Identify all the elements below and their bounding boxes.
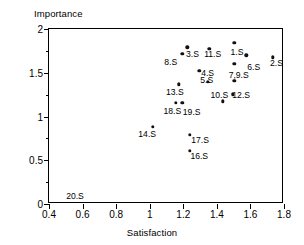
y-axis-title: Importance — [34, 8, 83, 19]
data-point-label: 18.S — [164, 106, 182, 116]
y-tick-mark — [44, 117, 49, 118]
data-point-label: 10.S — [211, 90, 229, 100]
data-point — [233, 41, 236, 44]
data-point-label: 2.S — [270, 58, 283, 68]
data-point-label: 19.S — [183, 107, 201, 117]
y-tick-minor — [46, 95, 50, 96]
data-point-label: 14.S — [138, 129, 156, 139]
y-tick-mark — [44, 160, 49, 161]
data-point-label: 6.S — [247, 62, 260, 72]
x-axis-title: Satisfaction — [0, 227, 304, 238]
y-tick-mark — [44, 73, 49, 74]
x-tick-label: 0.8 — [99, 209, 133, 220]
data-point-label: 3.S — [186, 49, 199, 59]
x-tick-label: 1.2 — [166, 209, 200, 220]
scatter-plot-figure: Importance 00.511.52 0.40.60.811.21.41.6… — [0, 0, 304, 245]
data-point — [221, 99, 224, 102]
data-point-label: 16.S — [190, 151, 208, 161]
data-point-label: 20.S — [66, 191, 84, 201]
data-point-label: 8.S — [164, 57, 177, 67]
y-tick-label: 1.5 — [17, 67, 43, 78]
y-tick-label: 2 — [17, 24, 43, 35]
data-point-label: 12.S — [232, 90, 250, 100]
data-point-label: 5.S — [200, 75, 213, 85]
data-point — [181, 101, 184, 104]
data-point-label: 1.S — [231, 47, 244, 57]
y-tick-label: 1 — [17, 111, 43, 122]
y-tick-mark — [44, 29, 49, 30]
plot-area: 00.511.52 0.40.60.811.21.41.61.8 3.S8.S1… — [48, 28, 283, 203]
data-point-label: 7,9.S — [229, 70, 249, 80]
data-point — [174, 101, 177, 104]
x-tick-label: 0.6 — [66, 209, 100, 220]
y-tick-minor — [46, 138, 50, 139]
data-point — [181, 52, 184, 55]
x-tick-label: 1 — [133, 209, 167, 220]
data-point — [151, 125, 154, 128]
x-tick-label: 1.4 — [200, 209, 234, 220]
y-tick-label: 0 — [17, 199, 43, 210]
data-point — [245, 54, 248, 57]
x-tick-label: 0.4 — [32, 209, 66, 220]
data-point — [233, 62, 236, 65]
x-tick-label: 1.8 — [267, 209, 301, 220]
data-point — [177, 82, 180, 85]
data-point-label: 17.S — [191, 135, 209, 145]
y-tick-label: 0.5 — [17, 155, 43, 166]
x-tick-label: 1.6 — [233, 209, 267, 220]
data-point-label: 13.S — [166, 87, 184, 97]
y-tick-minor — [46, 182, 50, 183]
data-point-label: 11.S — [204, 49, 221, 59]
y-tick-minor — [46, 51, 50, 52]
